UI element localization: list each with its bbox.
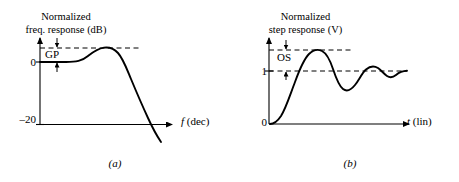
frequency-response-curve: [40, 47, 161, 142]
plot-svg-b: [229, 0, 458, 182]
plot-svg-a: [0, 0, 229, 182]
step-response-curve: [270, 50, 407, 124]
panel-step-response: Normalized step response (V) 1 0 OS t (l…: [229, 0, 458, 182]
figure-container: Normalized freq. response (dB) 0 –20 GP …: [0, 0, 459, 182]
panel-frequency-response: Normalized freq. response (dB) 0 –20 GP …: [0, 0, 229, 182]
